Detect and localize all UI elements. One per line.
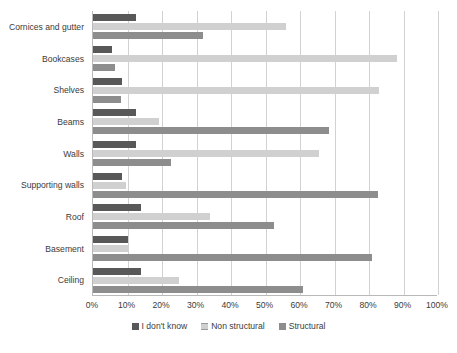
legend-item[interactable]: Non structural — [201, 321, 265, 331]
bar — [93, 127, 329, 134]
bar-row — [93, 222, 437, 229]
legend-label: Non structural — [211, 321, 265, 331]
bar — [93, 277, 179, 284]
bar-row — [93, 268, 437, 275]
legend-label: Structural — [289, 321, 326, 331]
bar-row — [93, 118, 437, 125]
bar — [93, 286, 303, 293]
bar-row — [93, 87, 437, 94]
y-axis-tick-label: Bookcases — [0, 54, 84, 64]
y-axis-tick-label: Beams — [0, 117, 84, 127]
chart-legend: I don't knowNon structuralStructural — [0, 321, 457, 331]
bar — [93, 159, 171, 166]
bar-row — [93, 191, 437, 198]
bar-row — [93, 150, 437, 157]
bar — [93, 118, 159, 125]
bar — [93, 23, 286, 30]
bar — [93, 78, 122, 85]
bar — [93, 64, 115, 71]
bar — [93, 222, 274, 229]
bar-row — [93, 159, 437, 166]
bar-row — [93, 204, 437, 211]
bar-group — [93, 106, 437, 138]
legend-swatch-icon — [132, 323, 139, 330]
bar-row — [93, 109, 437, 116]
bar-row — [93, 213, 437, 220]
y-axis-labels: Cornices and gutterBookcasesShelvesBeams… — [0, 11, 88, 296]
bar-row — [93, 127, 437, 134]
bar-row — [93, 14, 437, 21]
bar-row — [93, 55, 437, 62]
legend-swatch-icon — [279, 323, 286, 330]
bar — [93, 87, 379, 94]
bar-group — [93, 233, 437, 265]
bar-group — [93, 169, 437, 201]
bar — [93, 182, 126, 189]
bar-row — [93, 286, 437, 293]
bar-row — [93, 245, 437, 252]
bar-row — [93, 32, 437, 39]
plot-area — [92, 11, 437, 296]
bar-row — [93, 236, 437, 243]
bar-row — [93, 141, 437, 148]
bar-group — [93, 43, 437, 75]
gridline — [438, 11, 439, 295]
bar-group — [93, 201, 437, 233]
bar — [93, 245, 128, 252]
legend-label: I don't know — [142, 321, 188, 331]
y-axis-tick-label: Shelves — [0, 85, 84, 95]
y-axis-tick-label: Supporting walls — [0, 180, 84, 190]
legend-item[interactable]: I don't know — [132, 321, 188, 331]
bar-row — [93, 254, 437, 261]
bar-row — [93, 23, 437, 30]
legend-swatch-icon — [201, 323, 208, 330]
bar-row — [93, 173, 437, 180]
bar-group — [93, 11, 437, 43]
bar — [93, 109, 136, 116]
bar-row — [93, 46, 437, 53]
bar — [93, 236, 128, 243]
x-axis-labels: 0%10%20%30%40%50%60%70%80%90%100% — [0, 299, 457, 313]
y-axis-tick-label: Roof — [0, 212, 84, 222]
legend-item[interactable]: Structural — [279, 321, 326, 331]
bar — [93, 141, 136, 148]
bar-row — [93, 182, 437, 189]
bar-row — [93, 78, 437, 85]
bar — [93, 268, 141, 275]
bar — [93, 254, 372, 261]
y-axis-tick-label: Ceiling — [0, 275, 84, 285]
bar-chart: Cornices and gutterBookcasesShelvesBeams… — [0, 0, 457, 353]
x-axis-tick-label: 100% — [417, 299, 457, 311]
bar — [93, 14, 136, 21]
bar — [93, 96, 121, 103]
bar — [93, 213, 210, 220]
bar-row — [93, 96, 437, 103]
y-axis-tick-label: Walls — [0, 149, 84, 159]
bar-group — [93, 264, 437, 296]
bar — [93, 150, 319, 157]
y-axis-tick-label: Cornices and gutter — [0, 22, 84, 32]
bar — [93, 32, 203, 39]
bar — [93, 204, 141, 211]
bar-group — [93, 138, 437, 170]
bar — [93, 55, 397, 62]
bar-row — [93, 277, 437, 284]
bar — [93, 191, 378, 198]
bar — [93, 173, 122, 180]
bar-group — [93, 74, 437, 106]
bar — [93, 46, 112, 53]
y-axis-tick-label: Basement — [0, 244, 84, 254]
bar-row — [93, 64, 437, 71]
